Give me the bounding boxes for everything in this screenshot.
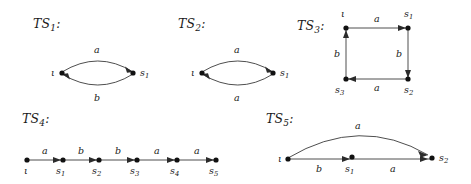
ts5-graph [0, 0, 471, 184]
ts5-node-label-s1: s1 [345, 163, 354, 176]
ts5-node-s1 [349, 154, 354, 159]
ts5-edge-a-arc [288, 136, 428, 158]
ts5-edge-label-b: b [316, 163, 322, 174]
ts5-node-label-iota: ι [278, 153, 282, 164]
transition-systems-figure: TS1: ι s1 a b TS2: ι s1 a a TS3: [0, 0, 471, 184]
ts5-edge-b-arrowhead [342, 156, 350, 162]
ts5-edge-a-straight-arrowhead [420, 156, 428, 162]
ts5-edge-label-a-arc: a [355, 120, 361, 131]
ts5-node-label-s2: s2 [439, 152, 448, 165]
ts5-node-iota [285, 156, 290, 161]
ts5-edge-label-a-straight: a [390, 163, 396, 174]
ts5-node-s2 [429, 155, 434, 160]
